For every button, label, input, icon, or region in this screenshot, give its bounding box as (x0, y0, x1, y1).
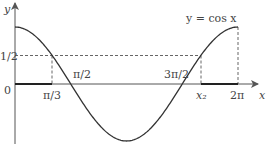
x-tick-x2: x₂ (196, 89, 207, 102)
origin-label: 0 (4, 84, 11, 97)
cosine-graph: y x 0 1/2 π/3 π/2 3π/2 x₂ 2π y = cos x (0, 0, 267, 144)
x-axis-label: x (259, 89, 266, 102)
guide-lines (15, 27, 238, 84)
x-tick-3pi-over-2: 3π/2 (164, 68, 189, 81)
curve-label: y = cos x (185, 12, 237, 25)
x-tick-2pi: 2π (230, 89, 244, 102)
y-axis-label: y (3, 3, 11, 16)
y-tick-half: 1/2 (0, 50, 18, 63)
x-tick-pi-over-3: π/3 (43, 89, 61, 102)
x-tick-pi-over-2: π/2 (73, 68, 91, 81)
